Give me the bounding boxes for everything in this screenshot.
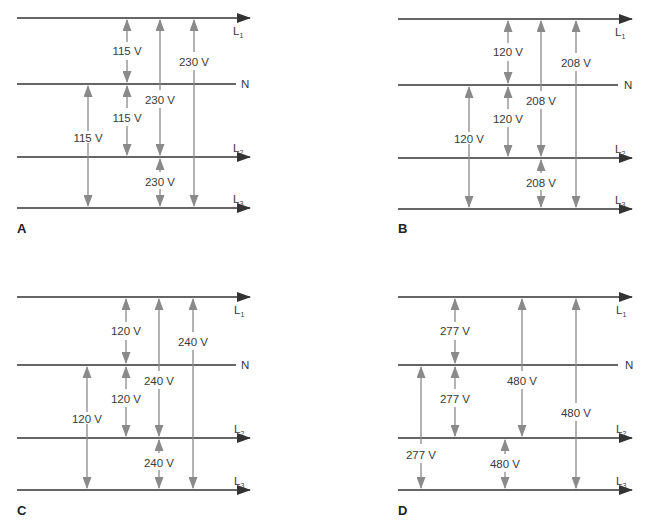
voltage-l1-l3: 480 V bbox=[561, 407, 591, 419]
label-l3: L3 bbox=[233, 193, 243, 207]
voltage-l2-l3: 480 V bbox=[490, 458, 520, 470]
voltage-l1-n: 120 V bbox=[111, 325, 141, 337]
panel-c: L1 N L2 L3 120 V 120 V 120 V 240 V 240 V… bbox=[17, 297, 250, 518]
voltage-n-l3: 120 V bbox=[72, 413, 102, 425]
voltage-n-l2: 115 V bbox=[112, 112, 142, 124]
voltage-systems-diagram: L1 N L2 L3 115 V 115 V 115 V 230 V 230 V… bbox=[0, 0, 648, 524]
panel-letter: B bbox=[398, 221, 407, 236]
voltage-n-l2: 277 V bbox=[440, 393, 470, 405]
voltage-l1-n: 277 V bbox=[440, 325, 470, 337]
label-neutral: N bbox=[241, 78, 249, 90]
label-neutral: N bbox=[624, 79, 632, 91]
voltage-l1-n: 120 V bbox=[493, 46, 523, 58]
voltage-n-l2: 120 V bbox=[493, 113, 523, 125]
label-l1: L1 bbox=[233, 25, 243, 39]
label-l2: L2 bbox=[615, 143, 625, 157]
label-l3: L3 bbox=[616, 475, 626, 489]
panel-a: L1 N L2 L3 115 V 115 V 115 V 230 V 230 V… bbox=[17, 18, 250, 236]
voltage-l1-l2: 480 V bbox=[507, 375, 537, 387]
label-l1: L1 bbox=[234, 304, 244, 318]
label-l3: L3 bbox=[615, 194, 625, 208]
label-neutral: N bbox=[625, 359, 633, 371]
label-l2: L2 bbox=[233, 142, 243, 156]
label-l2: L2 bbox=[234, 423, 244, 437]
label-l3: L3 bbox=[234, 475, 244, 489]
voltage-l2-l3: 240 V bbox=[144, 457, 174, 469]
voltage-l1-l2: 230 V bbox=[145, 94, 175, 106]
voltage-l1-l3: 230 V bbox=[179, 56, 209, 68]
label-neutral: N bbox=[241, 359, 249, 371]
panel-letter: D bbox=[398, 503, 407, 518]
panel-b: L1 N L2 L3 120 V 120 V 120 V 208 V 208 V… bbox=[398, 19, 632, 236]
voltage-l1-l2: 240 V bbox=[144, 375, 174, 387]
panel-letter: C bbox=[17, 503, 27, 518]
voltage-l1-l2: 208 V bbox=[526, 95, 556, 107]
panel-d: L1 N L2 L3 277 V 277 V 277 V 480 V 480 V… bbox=[398, 297, 633, 518]
voltage-n-l2: 120 V bbox=[111, 393, 141, 405]
panel-letter: A bbox=[17, 221, 27, 236]
label-l1: L1 bbox=[616, 304, 626, 318]
voltage-n-l3: 115 V bbox=[73, 132, 103, 144]
label-l1: L1 bbox=[615, 26, 625, 40]
voltage-l1-l3: 208 V bbox=[561, 57, 591, 69]
voltage-l1-l3: 240 V bbox=[178, 336, 208, 348]
voltage-n-l3: 277 V bbox=[406, 449, 436, 461]
voltage-l2-l3: 230 V bbox=[145, 176, 175, 188]
voltage-l2-l3: 208 V bbox=[526, 177, 556, 189]
voltage-n-l3: 120 V bbox=[454, 133, 484, 145]
voltage-l1-n: 115 V bbox=[112, 45, 142, 57]
label-l2: L2 bbox=[616, 423, 626, 437]
